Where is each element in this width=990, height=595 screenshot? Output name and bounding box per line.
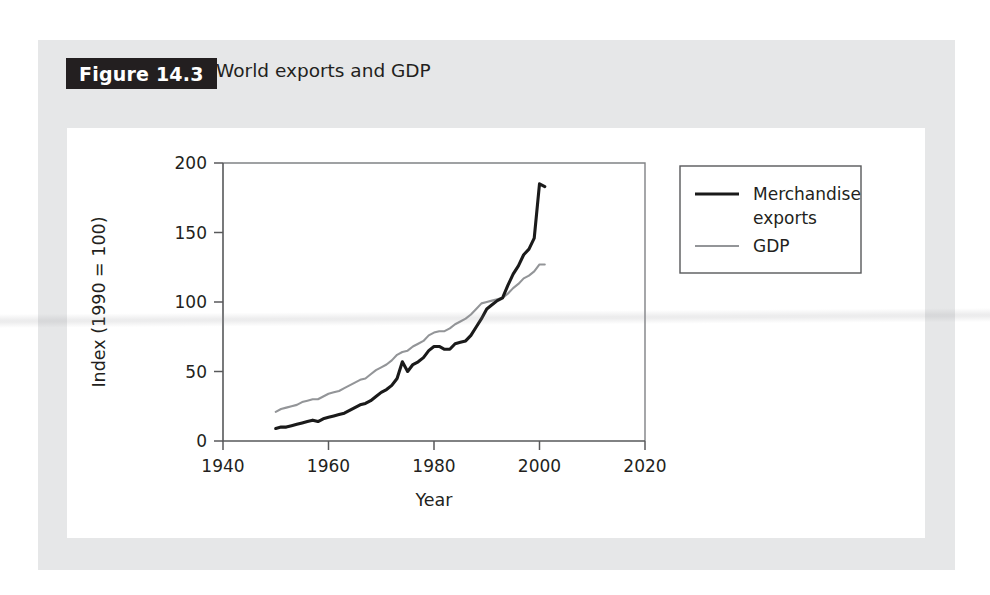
x-tick-label: 2020 xyxy=(623,456,666,476)
chart-legend: Merchandise exports GDP xyxy=(680,166,861,273)
figure-title: World exports and GDP xyxy=(216,60,431,81)
y-tick-label: 200 xyxy=(175,153,207,173)
y-axis-title: Index (1990 = 100) xyxy=(89,216,109,387)
x-axis-ticks: 19401960198020002020 xyxy=(201,441,666,476)
legend-label-gdp: GDP xyxy=(753,236,790,256)
y-tick-label: 100 xyxy=(175,292,207,312)
series-line-merchandise-exports xyxy=(276,184,545,429)
y-tick-label: 50 xyxy=(185,362,207,382)
y-axis-ticks: 050100150200 xyxy=(175,153,223,451)
data-series-group xyxy=(276,184,545,429)
x-tick-label: 1980 xyxy=(412,456,455,476)
figure-number-text: Figure 14.3 xyxy=(79,63,204,85)
x-tick-label: 1960 xyxy=(307,456,350,476)
line-chart: 050100150200 19401960198020002020 Index … xyxy=(67,128,925,538)
plot-panel: 050100150200 19401960198020002020 Index … xyxy=(67,128,925,538)
x-tick-label: 2000 xyxy=(518,456,561,476)
y-tick-label: 150 xyxy=(175,223,207,243)
legend-label-merchandise-exports-line1: Merchandise xyxy=(753,184,861,204)
y-tick-label: 0 xyxy=(196,431,207,451)
x-tick-label: 1940 xyxy=(201,456,244,476)
figure-number-badge: Figure 14.3 xyxy=(66,58,217,89)
chart-frame xyxy=(223,163,645,441)
x-axis-title: Year xyxy=(414,490,453,510)
legend-label-merchandise-exports-line2: exports xyxy=(753,208,817,228)
series-line-gdp xyxy=(276,264,545,411)
